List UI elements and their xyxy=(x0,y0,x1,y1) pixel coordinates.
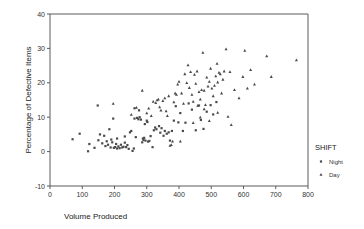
data-point-day xyxy=(192,121,195,124)
data-point-day xyxy=(112,102,115,105)
data-point-day xyxy=(227,115,230,118)
legend-label-day[interactable]: Day xyxy=(329,172,340,178)
series-day xyxy=(112,48,298,147)
data-point-day xyxy=(216,111,219,114)
legend-title: SHIFT xyxy=(315,143,337,152)
data-point-night xyxy=(188,102,190,104)
data-point-night xyxy=(212,113,214,115)
data-point-night xyxy=(153,129,155,131)
data-point-day xyxy=(167,94,170,97)
data-point-night xyxy=(128,148,130,150)
data-point-night xyxy=(215,101,217,103)
legend-marker-day[interactable] xyxy=(320,173,323,176)
data-point-night xyxy=(126,144,128,146)
data-point-night xyxy=(148,140,150,142)
data-point-day xyxy=(152,100,155,103)
data-point-day xyxy=(209,67,212,70)
data-point-night xyxy=(164,130,166,132)
data-point-day xyxy=(204,103,207,106)
data-point-day xyxy=(198,90,201,93)
data-point-night xyxy=(144,139,146,141)
data-point-day xyxy=(203,89,206,92)
data-point-day xyxy=(243,49,246,52)
data-point-day xyxy=(182,102,185,105)
data-point-night xyxy=(114,146,116,148)
x-axis-title: Volume Produced xyxy=(64,212,127,221)
data-point-night xyxy=(133,117,135,119)
x-axis-tick-label: 800 xyxy=(302,191,314,198)
x-axis-tick-label: 100 xyxy=(76,191,88,198)
data-point-night xyxy=(184,122,186,124)
data-point-night xyxy=(93,147,95,149)
data-point-night xyxy=(158,125,160,127)
data-point-night xyxy=(124,142,126,144)
x-axis-tick-label: 600 xyxy=(238,191,250,198)
data-point-night xyxy=(119,147,121,149)
data-point-day xyxy=(145,112,148,115)
data-point-day xyxy=(199,116,202,119)
data-point-day xyxy=(141,89,144,92)
data-point-night xyxy=(104,145,106,147)
data-point-night xyxy=(143,137,145,139)
data-point-night xyxy=(116,147,118,149)
data-point-day xyxy=(221,78,224,81)
data-point-night xyxy=(79,133,81,135)
data-point-day xyxy=(161,99,164,102)
data-point-day xyxy=(193,73,196,76)
y-axis-tick-label: 40 xyxy=(37,11,45,18)
data-point-night xyxy=(171,130,173,132)
data-point-day xyxy=(201,51,204,54)
data-point-night xyxy=(195,129,197,131)
data-point-day xyxy=(225,48,228,51)
data-point-day xyxy=(207,85,210,88)
data-point-day xyxy=(223,70,226,73)
data-point-day xyxy=(265,54,268,57)
data-point-night xyxy=(135,136,137,138)
data-point-day xyxy=(196,70,199,73)
data-point-day xyxy=(180,92,183,95)
data-point-day xyxy=(154,101,157,104)
data-point-night xyxy=(106,140,108,142)
data-point-day xyxy=(241,75,244,78)
data-point-night xyxy=(138,109,140,111)
data-point-day xyxy=(183,72,186,75)
data-point-night xyxy=(168,131,170,133)
legend-label-night[interactable]: Night xyxy=(329,159,343,165)
legend-marker-night[interactable] xyxy=(320,160,322,162)
data-point-day xyxy=(194,82,197,85)
data-point-night xyxy=(107,144,109,146)
data-point-day xyxy=(163,96,166,99)
data-point-day xyxy=(233,88,236,91)
data-point-day xyxy=(130,113,133,116)
data-point-day xyxy=(188,86,191,89)
data-point-night xyxy=(177,121,179,123)
scatter-plot-figure: -100102030400100200300400500600700800Vol… xyxy=(0,0,364,229)
data-point-night xyxy=(120,144,122,146)
data-point-night xyxy=(144,123,146,125)
data-point-day xyxy=(295,59,298,62)
data-point-night xyxy=(111,141,113,143)
y-axis-tick-label: 30 xyxy=(37,45,45,52)
y-axis-title: Percentage of Defective Items xyxy=(24,46,33,153)
data-point-day xyxy=(220,92,223,95)
x-axis-tick-label: 500 xyxy=(205,191,217,198)
data-point-day xyxy=(200,88,203,91)
data-point-night xyxy=(155,128,157,130)
y-axis-tick-label: 0 xyxy=(41,148,45,155)
data-point-night xyxy=(200,119,202,121)
data-point-day xyxy=(213,84,216,87)
data-point-night xyxy=(179,112,181,114)
data-point-day xyxy=(199,98,202,101)
data-point-day xyxy=(320,173,323,176)
data-point-night xyxy=(173,120,175,122)
data-point-night xyxy=(101,142,103,144)
data-point-night xyxy=(146,121,148,123)
data-point-day xyxy=(237,96,240,99)
data-point-night xyxy=(202,128,204,130)
data-point-night xyxy=(151,146,153,148)
data-point-day xyxy=(158,105,161,108)
data-point-day xyxy=(187,63,190,66)
data-point-day xyxy=(150,114,153,117)
data-point-night xyxy=(110,138,112,140)
data-point-day xyxy=(270,75,273,78)
